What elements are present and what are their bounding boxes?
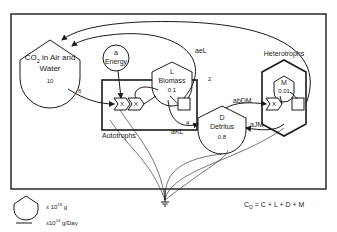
flow-abDM: abDM: [233, 97, 252, 104]
flow-aKL: aKL: [171, 128, 183, 135]
diagram-canvas: [0, 0, 337, 232]
microbes-symbol: M: [281, 79, 287, 86]
detritus-value: 0.8: [218, 134, 226, 140]
autotrophs-label: Autotrophs: [102, 132, 136, 139]
co2-value: 10: [47, 78, 54, 84]
flow-litter: 4: [186, 120, 189, 126]
multiplier-2: X: [134, 101, 138, 107]
flow-aJM: aJM: [250, 121, 263, 128]
legend-flow-units: x1014 g/Day: [46, 219, 78, 226]
biomass-value: 0.1: [168, 87, 176, 93]
energy-label: Energy: [105, 58, 127, 65]
energy-symbol: a: [114, 49, 118, 56]
co2-label: CO2 in Air and: [25, 54, 76, 64]
co2-label-line2: Water: [39, 65, 60, 73]
co2-tank-shape: [20, 40, 80, 108]
multiplier-1: X: [120, 101, 124, 107]
legend-storage-units: x 1018 g: [46, 203, 67, 210]
legend-storage-shape: [14, 196, 38, 220]
flow-resp-auto: 2: [208, 76, 211, 82]
biomass-symbol: L: [170, 68, 174, 75]
biomass-label: Biomass: [159, 77, 186, 84]
microbes-value: 0.01: [278, 88, 290, 94]
heterotrophs-label: Heterotrophs: [264, 50, 304, 57]
detritus-symbol: D: [219, 114, 224, 121]
carbon-equation: CO = C + L + D + M: [244, 201, 304, 211]
multiplier-heterotroph: X: [272, 101, 276, 107]
flow-aeL: aeL: [195, 47, 207, 54]
detritus-label: Detritus: [210, 123, 234, 130]
flow-co2-uptake: 6: [78, 88, 81, 94]
